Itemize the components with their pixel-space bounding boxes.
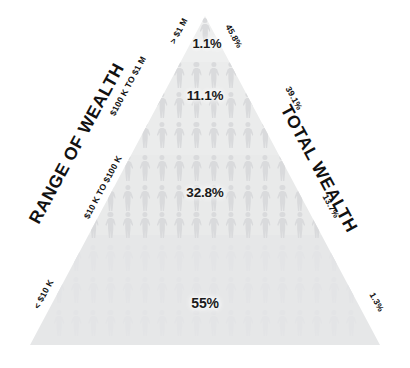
person-icon bbox=[190, 155, 202, 181]
person-icon bbox=[259, 310, 271, 336]
person-icon bbox=[225, 212, 237, 238]
person-icon bbox=[225, 310, 237, 336]
population-pct-tier-upper-middle: 11.1% bbox=[187, 88, 224, 103]
person-icon bbox=[156, 277, 168, 303]
person-icon bbox=[173, 212, 185, 238]
person-icon bbox=[276, 277, 288, 303]
person-icon bbox=[328, 277, 340, 303]
person-icon bbox=[156, 212, 168, 238]
person-icon bbox=[225, 277, 237, 303]
person-icon bbox=[104, 277, 116, 303]
population-pct-tier-base: 55% bbox=[191, 295, 218, 311]
population-pct-tier-lower-middle: 32.8% bbox=[186, 185, 223, 200]
person-icon bbox=[328, 310, 340, 336]
person-icon bbox=[242, 185, 254, 211]
person-icon bbox=[242, 310, 254, 336]
person-icon bbox=[276, 212, 288, 238]
person-icon bbox=[173, 122, 185, 148]
person-icon bbox=[242, 155, 254, 181]
person-icon bbox=[276, 185, 288, 211]
person-icon bbox=[294, 310, 306, 336]
person-icon bbox=[156, 155, 168, 181]
person-icon bbox=[225, 155, 237, 181]
person-icon bbox=[242, 212, 254, 238]
person-icon bbox=[259, 155, 271, 181]
person-icon bbox=[242, 245, 254, 271]
person-icon bbox=[294, 245, 306, 271]
person-icon bbox=[53, 310, 65, 336]
person-icon bbox=[190, 245, 202, 271]
person-icon bbox=[156, 185, 168, 211]
person-icon bbox=[122, 277, 134, 303]
person-icon bbox=[156, 122, 168, 148]
person-icon bbox=[208, 62, 220, 88]
person-icon bbox=[70, 310, 82, 336]
person-icon bbox=[242, 277, 254, 303]
person-icon bbox=[208, 245, 220, 271]
person-icon bbox=[173, 277, 185, 303]
person-icon bbox=[87, 277, 99, 303]
person-icon bbox=[87, 245, 99, 271]
person-icon bbox=[208, 310, 220, 336]
person-icon bbox=[87, 310, 99, 336]
person-icon bbox=[104, 212, 116, 238]
person-icon bbox=[208, 155, 220, 181]
person-icon bbox=[345, 310, 357, 336]
person-icon bbox=[259, 212, 271, 238]
person-icon bbox=[311, 245, 323, 271]
person-icon bbox=[139, 245, 151, 271]
person-icon bbox=[70, 277, 82, 303]
wealth-pyramid-infographic: 1.1% 11.1% 32.8% 55% RANGE OF WEALTH > $… bbox=[0, 0, 410, 368]
person-icon bbox=[173, 245, 185, 271]
person-icon bbox=[122, 245, 134, 271]
person-icon bbox=[294, 277, 306, 303]
person-icon bbox=[190, 212, 202, 238]
population-pct-tier-top: 1.1% bbox=[193, 36, 222, 51]
person-icon bbox=[122, 212, 134, 238]
person-icon bbox=[208, 212, 220, 238]
person-icon bbox=[311, 277, 323, 303]
person-icon bbox=[294, 212, 306, 238]
person-icon bbox=[139, 277, 151, 303]
person-icon bbox=[276, 310, 288, 336]
person-icon bbox=[276, 245, 288, 271]
person-icon bbox=[156, 245, 168, 271]
person-icon bbox=[259, 185, 271, 211]
person-icon bbox=[190, 122, 202, 148]
person-icon bbox=[259, 277, 271, 303]
person-icon bbox=[173, 310, 185, 336]
person-icon bbox=[225, 245, 237, 271]
person-icon bbox=[139, 185, 151, 211]
person-icon bbox=[190, 310, 202, 336]
person-icon bbox=[139, 155, 151, 181]
person-icon bbox=[173, 92, 185, 118]
person-icon bbox=[156, 310, 168, 336]
person-icon bbox=[173, 155, 185, 181]
person-icon bbox=[259, 245, 271, 271]
person-icon bbox=[122, 185, 134, 211]
person-icon bbox=[104, 245, 116, 271]
person-icon bbox=[139, 212, 151, 238]
person-icon bbox=[225, 92, 237, 118]
person-icon bbox=[173, 185, 185, 211]
person-icon bbox=[225, 185, 237, 211]
person-icon bbox=[139, 310, 151, 336]
person-icon bbox=[311, 310, 323, 336]
person-icon bbox=[190, 62, 202, 88]
person-icon bbox=[225, 122, 237, 148]
person-icon bbox=[242, 122, 254, 148]
person-icon bbox=[208, 122, 220, 148]
person-icon bbox=[104, 310, 116, 336]
person-icon bbox=[122, 310, 134, 336]
